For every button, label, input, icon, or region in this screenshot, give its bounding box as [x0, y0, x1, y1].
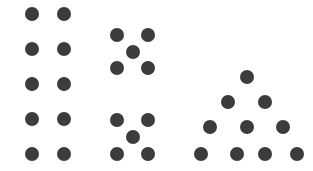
dot	[240, 120, 254, 134]
dot	[194, 147, 208, 161]
dot	[276, 120, 290, 134]
dot	[290, 147, 304, 161]
triangular-array-group	[0, 0, 313, 171]
dot	[240, 70, 254, 84]
dot	[258, 147, 272, 161]
dot	[230, 147, 244, 161]
dot	[203, 120, 217, 134]
dot-pattern-figure	[0, 0, 313, 171]
dot	[221, 95, 235, 109]
dot	[258, 95, 272, 109]
